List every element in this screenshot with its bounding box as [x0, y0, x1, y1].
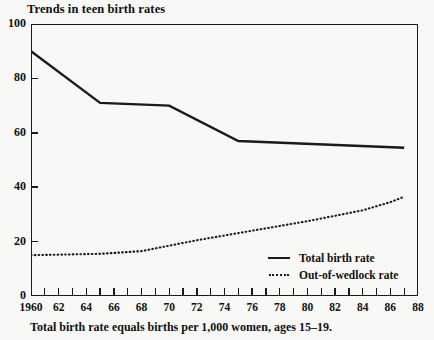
x-axis-tick	[265, 288, 266, 296]
x-axis-tick	[141, 288, 142, 296]
chart-caption: Total birth rate equals births per 1,000…	[30, 320, 332, 335]
legend-item-out-of-wedlock-rate: Out-of-wedlock rate	[268, 266, 398, 283]
legend-line-solid-icon	[268, 253, 290, 263]
series-out-of-wedlock-rate	[31, 197, 404, 255]
x-axis-tick	[169, 288, 170, 296]
x-axis-label: 70	[163, 301, 175, 313]
x-axis-tick	[279, 288, 280, 296]
x-axis-label: 76	[246, 301, 258, 313]
x-axis-tick	[307, 288, 308, 296]
x-axis-tick	[72, 288, 73, 296]
x-axis-tick	[238, 288, 239, 296]
x-axis-tick	[99, 288, 100, 296]
y-axis-label: 40	[0, 179, 26, 194]
x-axis-tick	[113, 288, 114, 296]
x-axis-tick	[58, 288, 59, 296]
x-axis-tick	[127, 288, 128, 296]
x-axis-label: 84	[357, 301, 369, 313]
chart-page: Trends in teen birth rates 020406080100 …	[0, 0, 434, 340]
legend-label-total-birth-rate: Total birth rate	[299, 252, 375, 264]
y-axis-label: 20	[0, 234, 26, 249]
x-axis-tick	[334, 288, 335, 296]
x-axis-tick	[44, 288, 45, 296]
x-axis-label: 82	[329, 301, 341, 313]
x-axis-label: 1960	[20, 301, 43, 313]
y-axis-tick	[31, 241, 38, 243]
x-axis-label: 62	[53, 301, 65, 313]
x-axis-tick	[348, 288, 349, 296]
x-axis-label: 78	[274, 301, 286, 313]
x-axis-label: 88	[412, 301, 424, 313]
x-axis-tick	[390, 288, 391, 296]
x-axis-tick	[210, 288, 211, 296]
y-axis-tick	[31, 186, 38, 188]
x-axis-tick	[321, 288, 322, 296]
x-axis-label: 66	[108, 301, 120, 313]
x-axis-label: 64	[81, 301, 93, 313]
y-axis-tick	[31, 132, 38, 134]
x-axis-tick	[86, 288, 87, 296]
x-axis-label: 74	[219, 301, 231, 313]
series-total-birth-rate	[31, 51, 404, 148]
legend-line-dotted-icon	[268, 270, 290, 280]
x-axis-label: 68	[136, 301, 148, 313]
x-axis-tick	[182, 288, 183, 296]
page-title: Trends in teen birth rates	[27, 2, 165, 17]
legend-item-total-birth-rate: Total birth rate	[268, 249, 398, 266]
y-axis-label: 60	[0, 125, 26, 140]
x-axis-tick	[376, 288, 377, 296]
chart-legend: Total birth rate Out-of-wedlock rate	[268, 249, 398, 283]
x-axis-tick	[362, 288, 363, 296]
x-axis-label: 86	[385, 301, 397, 313]
x-axis-tick	[404, 288, 405, 296]
y-axis-label: 100	[0, 16, 26, 31]
x-axis-tick	[196, 288, 197, 296]
x-axis-tick	[224, 288, 225, 296]
legend-label-out-of-wedlock-rate: Out-of-wedlock rate	[299, 269, 398, 281]
x-axis-tick	[155, 288, 156, 296]
x-axis-tick	[251, 288, 252, 296]
x-axis-label: 80	[302, 301, 314, 313]
y-axis-tick	[31, 78, 38, 80]
x-axis-tick	[293, 288, 294, 296]
x-axis-label: 72	[191, 301, 203, 313]
y-axis-label: 80	[0, 70, 26, 85]
